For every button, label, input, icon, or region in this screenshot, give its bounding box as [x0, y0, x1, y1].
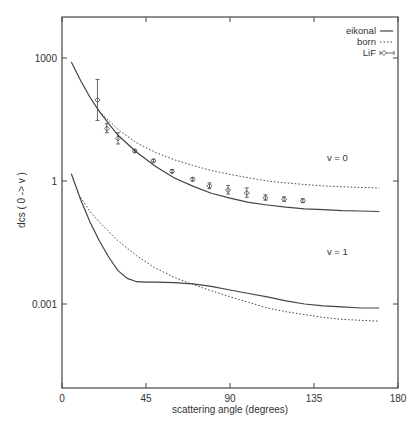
legend-label: eikonal	[346, 25, 376, 36]
legend-marker	[382, 51, 387, 56]
legend-label: LiF	[363, 47, 376, 58]
x-axis-label: scattering angle (degrees)	[172, 404, 288, 415]
x-tick-label: 180	[390, 393, 407, 404]
annotations: v = 0v = 1	[327, 152, 348, 256]
plot-frame	[62, 17, 398, 388]
x-tick-label: 45	[140, 393, 152, 404]
x-tick-label: 0	[59, 393, 65, 404]
y-axis-label: dcs ( 0 -> v )	[16, 172, 27, 228]
y-tick-label: 0.001	[32, 299, 57, 310]
x-tick-label: 90	[224, 393, 236, 404]
y-tick-label: 1	[51, 176, 57, 187]
series-line	[99, 111, 379, 188]
y-tick-label: 1000	[35, 53, 58, 64]
legend: eikonalbornLiF	[346, 25, 394, 58]
x-tick-label: 135	[306, 393, 323, 404]
legend-label: born	[357, 36, 376, 47]
curve-annotation: v = 1	[327, 246, 348, 257]
chart: 04590135180100010.001 eikonalbornLiF v =…	[0, 0, 419, 429]
series-layer	[71, 62, 379, 321]
curve-annotation: v = 0	[327, 152, 348, 163]
plot-border	[62, 17, 398, 388]
series-line	[81, 197, 380, 321]
